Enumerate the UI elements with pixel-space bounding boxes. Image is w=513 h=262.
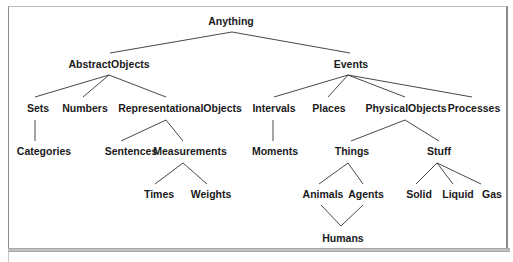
node-places: Places — [312, 103, 345, 114]
node-agents: Agents — [348, 189, 384, 200]
node-gas: Gas — [482, 189, 502, 200]
node-stuff: Stuff — [427, 146, 451, 157]
node-solid: Solid — [406, 189, 432, 200]
edge-representationalobjects-measurements — [166, 120, 183, 141]
edge-abstractobjects-representationalobjects — [109, 75, 166, 97]
edge-things-animals — [319, 163, 348, 184]
tree-edges — [0, 0, 513, 262]
node-moments: Moments — [252, 146, 298, 157]
node-sentences: Sentences — [105, 146, 158, 157]
node-representationalobjects: RepresentationalObjects — [118, 103, 242, 114]
node-sets: Sets — [27, 103, 49, 114]
node-numbers: Numbers — [62, 103, 108, 114]
node-events: Events — [334, 59, 368, 70]
edge-measurements-weights — [183, 163, 207, 184]
edge-animals-humans — [321, 205, 341, 226]
edge-events-physicalobjects — [348, 75, 405, 97]
edge-measurements-times — [155, 163, 183, 184]
node-humans: Humans — [322, 233, 363, 244]
node-weights: Weights — [191, 189, 232, 200]
edge-physicalobjects-things — [351, 120, 405, 141]
edge-agents-humans — [341, 205, 363, 226]
edge-abstractobjects-numbers — [83, 75, 109, 97]
edge-representationalobjects-sentences — [121, 120, 166, 141]
edge-anything-abstractobjects — [110, 32, 232, 53]
node-animals: Animals — [303, 189, 344, 200]
edge-events-intervals — [274, 75, 348, 97]
node-anything: Anything — [208, 16, 254, 27]
edge-anything-events — [232, 32, 350, 53]
edge-events-processes — [348, 75, 472, 97]
node-intervals: Intervals — [252, 103, 295, 114]
edge-physicalobjects-stuff — [405, 120, 439, 141]
node-physicalobjects: PhysicalObjects — [365, 103, 446, 114]
node-times: Times — [144, 189, 174, 200]
edge-stuff-solid — [416, 163, 437, 184]
node-measurements: Measurements — [153, 146, 227, 157]
edge-abstractobjects-sets — [35, 75, 109, 97]
node-liquid: Liquid — [442, 189, 474, 200]
node-abstractobjects: AbstractObjects — [68, 59, 149, 70]
node-categories: Categories — [17, 146, 71, 157]
node-things: Things — [335, 146, 369, 157]
edge-stuff-gas — [437, 163, 481, 184]
edge-things-agents — [348, 163, 363, 184]
node-processes: Processes — [448, 103, 501, 114]
edge-stuff-liquid — [437, 163, 453, 184]
